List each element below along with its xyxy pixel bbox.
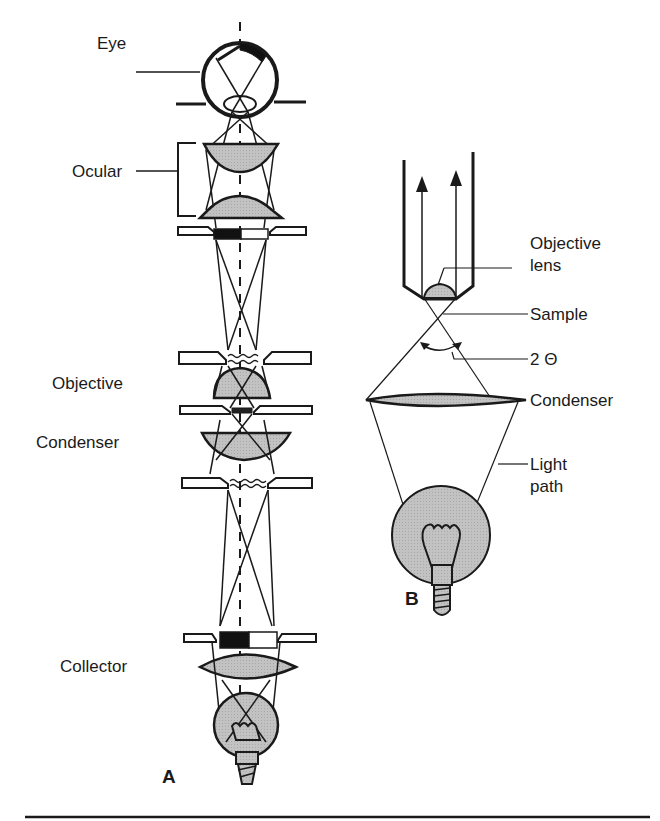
ocular-bracket: [178, 143, 196, 216]
eye-icon: [176, 43, 306, 117]
intermediate-image-plate: [178, 227, 306, 239]
label-sample: Sample: [530, 305, 588, 324]
stage-plate: [180, 406, 312, 414]
lamp-a-icon: [214, 680, 278, 784]
label-ocular: Ocular: [72, 162, 122, 181]
objective-barrel: [404, 152, 473, 299]
panel-a-labels: Eye Ocular Objective Condenser Collector…: [36, 34, 200, 787]
label-condenser: Condenser: [36, 433, 120, 452]
label-light-path-1: Light: [530, 455, 567, 474]
label-objective: Objective: [52, 374, 123, 393]
condenser-lens-b: [366, 394, 526, 406]
field-diaphragm-plate: [182, 478, 312, 488]
objective-lens-b: [424, 284, 456, 298]
objective-aperture-plate: [179, 352, 311, 364]
panel-a: [136, 22, 316, 784]
label-collector: Collector: [60, 657, 127, 676]
label-eye: Eye: [97, 34, 126, 53]
label-objective-lens-1: Objective: [530, 234, 601, 253]
microscope-diagram: Eye Ocular Objective Condenser Collector…: [0, 0, 660, 821]
panel-b: [366, 152, 528, 615]
objective-lens: [214, 368, 270, 398]
ocular-upper-lens: [204, 144, 278, 172]
label-condenser-b: Condenser: [530, 391, 614, 410]
label-angle: 2 Θ: [530, 350, 557, 369]
aperture-diaphragm-plate: [184, 632, 316, 648]
panel-a-letter: A: [162, 766, 176, 787]
label-light-path-2: path: [530, 477, 563, 496]
label-objective-lens-2: lens: [530, 256, 561, 275]
panel-b-letter: B: [405, 588, 419, 609]
